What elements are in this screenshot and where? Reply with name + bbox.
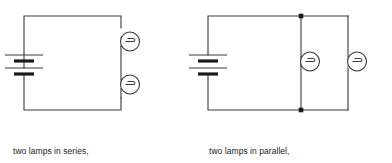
caption-parallel-line1: two lamps in parallel,	[209, 146, 289, 157]
caption-series-line1: two lamps in series,	[13, 146, 89, 157]
wire-top-left	[24, 16, 121, 68]
wire-bottom-left	[24, 74, 121, 110]
lamp-branch-1	[301, 52, 320, 71]
wire-top-right	[208, 16, 348, 55]
lamp-bottom	[121, 75, 140, 94]
junction-top-dot	[299, 14, 304, 19]
lamp-top	[121, 32, 140, 51]
circuit-figure: two lamps in series, two cells in series…	[0, 0, 392, 163]
wire-bottom-right	[208, 74, 348, 110]
caption-series-circuit: two lamps in series, two cells in series	[13, 124, 89, 163]
series-circuit	[5, 16, 140, 110]
lamp-branch-2	[348, 52, 367, 71]
parallel-wires	[208, 16, 357, 110]
series-wires	[24, 16, 130, 110]
caption-parallel-circuit: two lamps in parallel, two cells in seri…	[209, 124, 289, 163]
junction-bottom-dot	[299, 108, 304, 113]
battery-two-cells	[189, 55, 227, 74]
parallel-circuit	[189, 14, 367, 113]
